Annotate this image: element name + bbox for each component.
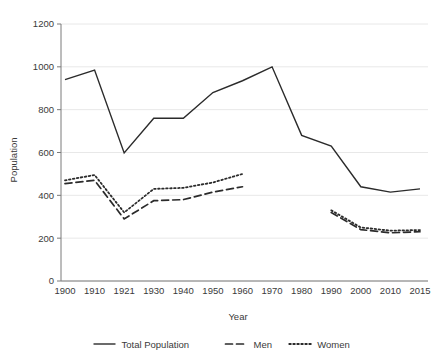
legend-label[interactable]: Men [254, 339, 272, 350]
x-tick-label: 1930 [143, 285, 164, 296]
chart-legend: Total PopulationMenWomen [94, 339, 350, 350]
x-tick-label: 1921 [114, 285, 135, 296]
chart-canvas: 020040060080010001200 190019101921193019… [0, 0, 437, 364]
x-tick-label: 1960 [232, 285, 253, 296]
series-line-women [65, 174, 243, 213]
legend-label[interactable]: Total Population [122, 339, 190, 350]
x-tick-label: 1990 [321, 285, 342, 296]
x-tick-label: 1950 [202, 285, 223, 296]
y-tick-label: 200 [38, 233, 54, 244]
x-tick-label: 2015 [409, 285, 430, 296]
y-axis-group: 020040060080010001200 [33, 18, 61, 286]
x-tick-label: 1910 [84, 285, 105, 296]
x-tick-label: 2000 [350, 285, 371, 296]
series-line-men [65, 180, 243, 219]
x-axis-group: 1900191019211930194019501960197019801990… [54, 281, 430, 296]
x-tick-label: 1970 [262, 285, 283, 296]
y-tick-label: 1200 [33, 18, 54, 29]
x-axis-title: Year [228, 311, 247, 322]
legend-label[interactable]: Women [317, 339, 350, 350]
y-tick-label: 600 [38, 147, 54, 158]
gridlines-group [61, 24, 428, 281]
x-tick-label: 2010 [380, 285, 401, 296]
y-tick-label: 1000 [33, 61, 54, 72]
y-tick-label: 0 [49, 275, 54, 286]
x-tick-label: 1980 [291, 285, 312, 296]
x-tick-label: 1900 [54, 285, 75, 296]
series-group [65, 67, 420, 233]
line-chart: 020040060080010001200 190019101921193019… [0, 0, 437, 364]
y-tick-label: 400 [38, 190, 54, 201]
y-axis-title: Population [8, 138, 19, 183]
x-tick-label: 1940 [173, 285, 194, 296]
y-tick-label: 800 [38, 104, 54, 115]
